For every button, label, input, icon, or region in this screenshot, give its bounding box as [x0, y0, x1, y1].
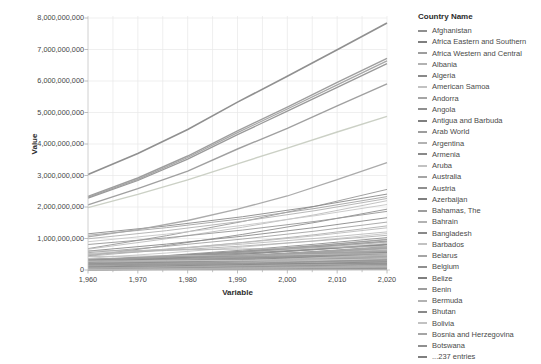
y-axis-title: Value — [30, 133, 39, 154]
legend-item: Bangladesh — [418, 228, 539, 239]
legend-item: Bahamas, The — [418, 205, 539, 216]
legend-swatch-line — [418, 277, 427, 279]
legend-swatch-line — [418, 30, 427, 32]
legend-item-label: Benin — [432, 285, 451, 294]
legend-swatch-line — [418, 288, 427, 290]
legend-item-label: Aruba — [432, 161, 452, 170]
legend-swatch-line — [418, 86, 427, 88]
legend-item: Bolivia — [418, 318, 539, 329]
legend-swatch-line — [418, 232, 427, 234]
legend-item: Albania — [418, 59, 539, 70]
legend-swatch-line — [418, 75, 427, 77]
y-tick-label: 7,000,000,000 — [37, 45, 84, 54]
legend-item-label: Austria — [432, 184, 455, 193]
legend-swatch-line — [418, 356, 427, 358]
legend-item: Antigua and Barbuda — [418, 115, 539, 126]
y-tick-label: 0 — [80, 265, 84, 274]
legend: Country Name Afghanistan Africa Eastern … — [418, 12, 539, 363]
chart-container: 0 1,000,000,000 2,000,000,000 3,000,000,… — [0, 0, 541, 364]
legend-item-label: Bermuda — [432, 296, 462, 305]
x-tick-label: 1,960 — [79, 275, 97, 284]
x-tick-label: 1,990 — [228, 275, 246, 284]
legend-item: Aruba — [418, 160, 539, 171]
legend-item-label: Andorra — [432, 94, 459, 103]
legend-swatch-line — [418, 41, 427, 43]
legend-item-label: Bhutan — [432, 307, 456, 316]
legend-item: Bermuda — [418, 295, 539, 306]
legend-item-label: Africa Eastern and Southern — [432, 37, 526, 46]
legend-item: Andorra — [418, 93, 539, 104]
legend-swatch-line — [418, 322, 427, 324]
legend-swatch-line — [418, 221, 427, 223]
legend-item: Benin — [418, 284, 539, 295]
x-tick-label: 2,010 — [328, 275, 346, 284]
legend-item-label: Africa Western and Central — [432, 49, 522, 58]
legend-item: Armenia — [418, 149, 539, 160]
legend-item: Bhutan — [418, 306, 539, 317]
legend-item-label: Bangladesh — [432, 229, 472, 238]
legend-item: Austria — [418, 183, 539, 194]
legend-item-label: American Samoa — [432, 82, 490, 91]
y-tick-label: 1,000,000,000 — [37, 234, 84, 243]
y-tick-label: 4,000,000,000 — [37, 139, 84, 148]
legend-item: American Samoa — [418, 81, 539, 92]
x-tick-label: 2,020 — [378, 275, 396, 284]
legend-item: Bosnia and Herzegovina — [418, 329, 539, 340]
legend-swatch-line — [418, 198, 427, 200]
legend-swatch-line — [418, 266, 427, 268]
legend-item: Africa Western and Central — [418, 48, 539, 59]
legend-swatch-line — [418, 165, 427, 167]
legend-item: Belgium — [418, 261, 539, 272]
legend-item: Botswana — [418, 340, 539, 351]
legend-item: Afghanistan — [418, 25, 539, 36]
legend-item-label: Algeria — [432, 71, 455, 80]
legend-item-label: Armenia — [432, 150, 460, 159]
legend-item: Barbados — [418, 239, 539, 250]
legend-swatch-line — [418, 210, 427, 212]
legend-item: Bahrain — [418, 216, 539, 227]
legend-item: Belarus — [418, 250, 539, 261]
legend-item-label: Bolivia — [432, 319, 454, 328]
legend-swatch-line — [418, 97, 427, 99]
legend-swatch-line — [418, 300, 427, 302]
legend-item-label: Botswana — [432, 341, 465, 350]
x-tick-label: 2,000 — [278, 275, 296, 284]
legend-item-label: Antigua and Barbuda — [432, 116, 502, 125]
legend-item-label: Angola — [432, 105, 455, 114]
legend-swatch-line — [418, 63, 427, 65]
legend-title: Country Name — [418, 12, 539, 21]
legend-item-label: Belarus — [432, 251, 457, 260]
legend-swatch-line — [418, 142, 427, 144]
legend-swatch-line — [418, 243, 427, 245]
legend-item: Algeria — [418, 70, 539, 81]
legend-item-label: Belgium — [432, 262, 459, 271]
legend-item-label: Barbados — [432, 240, 464, 249]
legend-item-label: Bosnia and Herzegovina — [432, 330, 514, 339]
x-tick-label: 1,980 — [179, 275, 197, 284]
legend-swatch-line — [418, 131, 427, 133]
legend-swatch-line — [418, 176, 427, 178]
legend-swatch-line — [418, 120, 427, 122]
legend-item-label: Belize — [432, 274, 452, 283]
legend-swatch-line — [418, 333, 427, 335]
y-tick-label: 8,000,000,000 — [37, 13, 84, 22]
legend-item: Azerbaijan — [418, 194, 539, 205]
legend-swatch-line — [418, 345, 427, 347]
legend-item: Angola — [418, 104, 539, 115]
legend-item: Belize — [418, 273, 539, 284]
legend-item: Africa Eastern and Southern — [418, 36, 539, 47]
legend-item-label: ...237 entries — [432, 352, 475, 361]
y-tick-label: 2,000,000,000 — [37, 202, 84, 211]
legend-item-label: Bahrain — [432, 217, 458, 226]
legend-item-label: Bahamas, The — [432, 206, 481, 215]
x-axis-title: Variable — [222, 288, 253, 297]
legend-swatch-line — [418, 187, 427, 189]
legend-item: Arab World — [418, 126, 539, 137]
legend-swatch-line — [418, 311, 427, 313]
legend-item-label: Argentina — [432, 139, 464, 148]
legend-swatch-line — [418, 255, 427, 257]
legend-swatch-line — [418, 153, 427, 155]
y-tick-label: 3,000,000,000 — [37, 171, 84, 180]
legend-item: Argentina — [418, 138, 539, 149]
legend-swatch-line — [418, 52, 427, 54]
